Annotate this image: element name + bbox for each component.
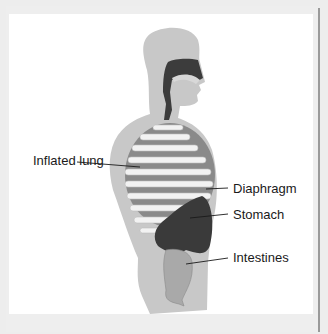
label-diaphragm: Diaphragm <box>233 182 297 195</box>
label-stomach: Stomach <box>233 208 284 221</box>
label-inflated-lung: Inflated lung <box>33 154 104 167</box>
label-intestines: Intestines <box>233 251 289 264</box>
